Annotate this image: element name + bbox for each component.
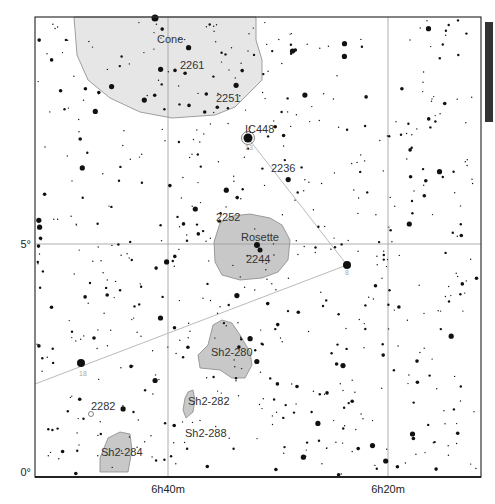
star — [256, 438, 257, 439]
star — [442, 43, 444, 45]
star — [266, 279, 267, 280]
star — [140, 286, 142, 288]
star — [219, 306, 220, 307]
star — [43, 193, 47, 197]
star — [419, 352, 420, 353]
star — [254, 359, 259, 364]
star — [417, 381, 418, 382]
star — [141, 154, 142, 155]
star — [96, 223, 98, 225]
star — [174, 266, 175, 267]
star — [325, 391, 329, 395]
star — [452, 171, 454, 173]
star — [280, 111, 282, 113]
star — [462, 310, 463, 311]
star — [202, 298, 203, 299]
star — [206, 377, 207, 378]
star — [89, 282, 91, 284]
star — [71, 180, 72, 181]
star — [220, 52, 222, 54]
star — [261, 167, 263, 169]
star — [387, 304, 389, 306]
star — [153, 94, 157, 98]
star — [181, 197, 182, 198]
star — [228, 304, 230, 306]
star — [356, 447, 360, 451]
star — [97, 435, 98, 436]
bright-star — [343, 261, 351, 269]
star — [160, 27, 164, 31]
star — [411, 212, 413, 214]
star — [374, 284, 378, 288]
star — [178, 249, 179, 250]
star — [217, 313, 218, 314]
star — [310, 411, 312, 413]
star — [186, 234, 187, 235]
star — [114, 297, 115, 298]
star — [78, 398, 82, 402]
star — [420, 27, 421, 28]
star — [457, 99, 458, 100]
star — [449, 334, 454, 339]
star — [111, 245, 112, 246]
star — [376, 468, 378, 470]
object-label: 2282 — [91, 400, 115, 412]
star — [96, 348, 97, 349]
star — [92, 336, 96, 340]
star — [121, 406, 126, 411]
star — [448, 300, 450, 302]
star — [383, 254, 385, 256]
star — [199, 420, 200, 421]
star — [178, 141, 180, 143]
magnitude-label: 8 — [345, 269, 349, 276]
star — [465, 122, 466, 123]
star — [193, 206, 198, 211]
object-label: 2252 — [216, 211, 240, 223]
star — [281, 63, 282, 64]
star — [162, 129, 163, 130]
star — [244, 157, 245, 158]
star — [237, 322, 238, 323]
star — [152, 393, 153, 394]
star — [326, 448, 327, 449]
star — [47, 357, 48, 358]
star — [142, 98, 147, 103]
star — [235, 380, 236, 381]
star — [173, 69, 177, 73]
star — [383, 258, 385, 260]
star — [456, 273, 457, 274]
bright-star — [77, 359, 85, 367]
star — [308, 331, 309, 332]
star — [348, 402, 350, 404]
star — [328, 46, 329, 47]
star — [51, 429, 53, 431]
star — [364, 125, 366, 127]
star — [394, 309, 395, 310]
star — [133, 305, 135, 307]
star — [445, 30, 447, 32]
star — [78, 444, 79, 445]
star — [383, 170, 384, 171]
star — [340, 383, 341, 384]
star — [97, 455, 98, 456]
star — [276, 412, 277, 413]
star — [130, 159, 131, 160]
star — [186, 45, 191, 50]
star — [144, 441, 145, 442]
star — [467, 159, 468, 160]
star — [179, 226, 180, 227]
star — [105, 293, 109, 297]
star — [105, 287, 107, 289]
star — [52, 348, 54, 350]
star — [448, 455, 449, 456]
star — [173, 442, 174, 443]
star — [336, 343, 338, 345]
star — [50, 58, 54, 62]
star — [240, 63, 241, 64]
star — [80, 165, 85, 170]
star — [413, 190, 414, 191]
star — [141, 182, 143, 184]
star — [406, 133, 407, 134]
star — [342, 41, 347, 46]
star — [423, 194, 427, 198]
